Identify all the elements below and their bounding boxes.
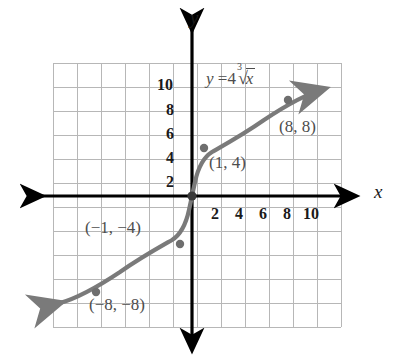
label-point-neg8-neg8: (−8, −8) (89, 296, 145, 313)
y-tick-8: 8 (166, 102, 174, 118)
point-origin (187, 191, 196, 200)
point-1-4 (200, 144, 208, 152)
y-tick-4: 4 (166, 150, 174, 166)
y-tick-10: 10 (157, 77, 173, 93)
radical-expression: 3√x (236, 69, 255, 87)
x-tick-8: 8 (283, 206, 291, 222)
equation-annotation: y =43√x (206, 69, 255, 87)
point-8-8 (284, 96, 292, 104)
label-point-neg1-neg4: (−1, −4) (85, 219, 141, 236)
equation-coefficient: 4 (227, 69, 236, 88)
x-tick-10: 10 (303, 206, 319, 222)
equation-equals: = (218, 69, 228, 88)
label-point-1-4: (1, 4) (209, 154, 246, 171)
y-tick-6: 6 (166, 126, 174, 142)
point-neg1-neg4 (176, 240, 184, 248)
coordinate-plane (0, 0, 404, 357)
radicand: x (246, 68, 256, 88)
equation-lhs: y (206, 69, 214, 88)
x-tick-4: 4 (235, 206, 243, 222)
y-tick-2: 2 (166, 174, 174, 190)
y-axis-label: y (190, 8, 198, 27)
root-index: 3 (237, 62, 242, 72)
x-tick-2: 2 (211, 206, 219, 222)
x-tick-6: 6 (259, 206, 267, 222)
graph-figure: y x 10 8 6 4 2 2 4 6 8 10 y =43√x (8, 8)… (0, 0, 404, 357)
x-axis-label: x (374, 182, 382, 201)
label-point-8-8: (8, 8) (279, 118, 316, 135)
